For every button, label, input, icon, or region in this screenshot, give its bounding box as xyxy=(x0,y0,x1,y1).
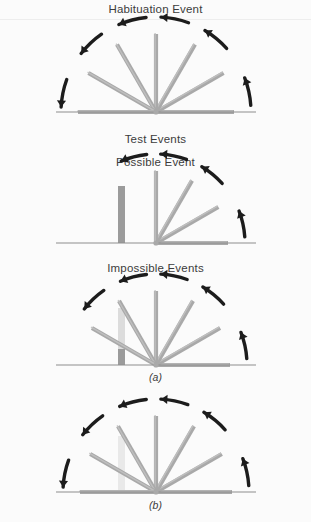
screen-arm-highlight xyxy=(155,453,221,491)
rotation-arrow-right-low xyxy=(239,332,248,358)
rotation-arrow-right-low xyxy=(237,211,246,237)
pivot-point xyxy=(153,489,158,494)
impossible-event-a-fan xyxy=(56,270,256,368)
rotation-arrow-top-right-head xyxy=(161,270,168,279)
rotation-arrow-left-low-head xyxy=(57,100,66,107)
rotation-arrow-left-mid xyxy=(81,34,101,53)
rotation-arrow-left-low xyxy=(59,460,69,487)
rotation-arrow-top-left xyxy=(120,400,147,409)
solid-object-box-body xyxy=(118,186,125,243)
rotation-arrow-right-mid xyxy=(202,166,222,183)
rotation-arrow-top-right-head xyxy=(161,395,168,404)
solid-object-box xyxy=(118,186,125,243)
fan-diagram-canvas xyxy=(0,0,311,522)
rotation-arrow-top-left xyxy=(120,274,146,282)
rotation-arrow-right-mid xyxy=(205,30,227,48)
pivot-point xyxy=(153,240,158,245)
rotation-arrow-left-low-head xyxy=(59,480,68,487)
ghost-object-box xyxy=(118,436,125,492)
rotation-arrow-top-right xyxy=(161,13,189,23)
screen-arm-highlight xyxy=(155,72,223,111)
fan-diagram-layer xyxy=(0,0,311,522)
rotation-arrow-right-mid xyxy=(204,412,225,430)
screen-arm-highlight xyxy=(155,206,217,242)
habituation-event-fan xyxy=(56,13,256,115)
rotation-arrow-top-left xyxy=(119,18,146,27)
rotation-arrow-right-low xyxy=(243,78,252,105)
figure-page: Habituation Event Test Events Possible E… xyxy=(0,0,311,522)
impossible-event-b-fan xyxy=(56,395,256,495)
rotation-arrow-top-left xyxy=(121,154,146,162)
rotation-arrow-left-mid xyxy=(84,290,104,309)
possible-event-fan xyxy=(56,150,256,246)
ghost-object-box-body xyxy=(118,436,125,492)
pivot-point xyxy=(153,109,158,114)
pivot-point xyxy=(153,362,158,367)
ghost-object-box xyxy=(118,308,125,365)
rotation-arrow-top-right xyxy=(161,270,187,280)
rotation-arrow-left-low xyxy=(57,80,67,108)
rotation-arrow-right-low xyxy=(241,459,250,486)
rotation-arrow-left-mid xyxy=(83,416,103,435)
rotation-arrow-top-right-head xyxy=(161,150,168,159)
rotation-arrow-top-right xyxy=(161,395,188,405)
screen-arm-highlight xyxy=(155,327,219,364)
ghost-object-box-foot xyxy=(118,349,125,365)
rotation-arrow-right-mid xyxy=(203,286,224,304)
rotation-arrow-top-right-head xyxy=(161,13,168,22)
rotation-arrow-top-right xyxy=(161,150,187,159)
